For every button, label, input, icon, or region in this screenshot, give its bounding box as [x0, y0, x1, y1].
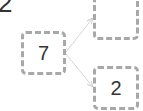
part-number-box: 2 — [93, 66, 139, 110]
arrow-to-top-box — [66, 19, 92, 52]
answer-box-empty[interactable] — [93, 0, 139, 40]
root-number-box: 7 — [21, 31, 66, 75]
arrow-to-bottom-box — [66, 54, 92, 86]
